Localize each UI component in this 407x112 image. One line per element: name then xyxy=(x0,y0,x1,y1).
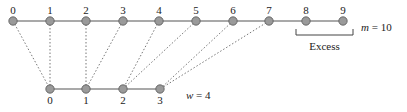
top-node-4: 4 xyxy=(155,4,163,25)
excess-bracket: Excess xyxy=(296,29,353,52)
node-circle xyxy=(119,17,127,25)
node-index-label: 2 xyxy=(83,4,89,16)
node-circle xyxy=(46,17,54,25)
node-circle xyxy=(229,17,237,25)
node-circle xyxy=(156,85,164,93)
mapping-link xyxy=(160,21,269,89)
mapping-link xyxy=(86,21,123,89)
bracket-shape xyxy=(296,29,353,35)
node-index-label: 9 xyxy=(340,4,346,16)
node-index-label: 3 xyxy=(120,4,126,16)
node-circle xyxy=(302,17,310,25)
excess-label: Excess xyxy=(309,40,340,52)
node-circle xyxy=(119,85,127,93)
node-index-label: 0 xyxy=(47,94,53,106)
node-index-label: 3 xyxy=(157,94,163,106)
top-node-9: 9 xyxy=(339,4,347,25)
node-index-label: 7 xyxy=(266,4,272,16)
top-node-0: 0 xyxy=(9,4,17,25)
node-index-label: 1 xyxy=(47,4,53,16)
node-index-label: 5 xyxy=(193,4,199,16)
top-node-7: 7 xyxy=(265,4,273,25)
node-circle xyxy=(155,17,163,25)
top-node-3: 3 xyxy=(119,4,127,25)
node-circle xyxy=(192,17,200,25)
mapping-link xyxy=(13,21,50,89)
top-row-size-label: m = 10 xyxy=(361,21,392,33)
mapping-link xyxy=(123,21,159,89)
top-node-8: 8 xyxy=(302,4,310,25)
node-index-label: 2 xyxy=(120,94,126,106)
bottom-row-nodes: 0123 xyxy=(46,85,164,106)
mapping-link xyxy=(160,21,233,89)
node-circle xyxy=(82,85,90,93)
node-index-label: 6 xyxy=(230,4,236,16)
dotted-mapping-links xyxy=(13,21,269,89)
top-row-nodes: 0123456789 xyxy=(9,4,347,25)
bottom-node-1: 1 xyxy=(82,85,90,106)
node-circle xyxy=(9,17,17,25)
top-node-2: 2 xyxy=(82,4,90,25)
node-circle xyxy=(82,17,90,25)
top-node-1: 1 xyxy=(46,4,54,25)
top-node-5: 5 xyxy=(192,4,200,25)
node-index-label: 4 xyxy=(156,4,162,16)
node-circle xyxy=(265,17,273,25)
node-circle xyxy=(339,17,347,25)
node-circle xyxy=(46,85,54,93)
array-mapping-diagram: 0123456789 0123 Excess m = 10 w = 4 xyxy=(0,0,407,112)
bottom-node-2: 2 xyxy=(119,85,127,106)
node-index-label: 1 xyxy=(83,94,89,106)
node-index-label: 0 xyxy=(10,4,16,16)
mapping-link xyxy=(123,21,196,89)
node-index-label: 8 xyxy=(303,4,309,16)
top-node-6: 6 xyxy=(229,4,237,25)
bottom-row-size-label: w = 4 xyxy=(186,89,211,101)
bottom-node-3: 3 xyxy=(156,85,164,106)
bottom-node-0: 0 xyxy=(46,85,54,106)
